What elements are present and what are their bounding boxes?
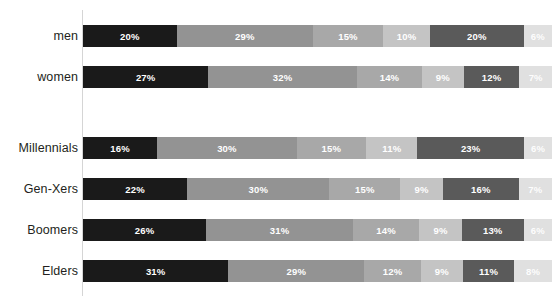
bar-segment: 15% [297, 137, 367, 159]
segment-value-label: 11% [382, 143, 401, 154]
segment-value-label: 6% [531, 225, 545, 236]
segment-value-label: 30% [217, 143, 237, 154]
chart-rows-area: men20%29%15%10%20%6%women27%32%14%9%12%7… [0, 0, 556, 306]
segment-value-label: 10% [397, 31, 417, 42]
bar-segment: 10% [383, 25, 430, 47]
row-label-gen-xers: Gen-Xers [0, 178, 78, 200]
bar-segment: 30% [187, 178, 329, 200]
bar-segment: 15% [329, 178, 400, 200]
segment-value-label: 9% [435, 266, 449, 277]
segment-value-label: 30% [248, 184, 268, 195]
segment-value-label: 23% [461, 143, 481, 154]
segment-value-label: 16% [110, 143, 130, 154]
segment-value-label: 15% [338, 31, 358, 42]
bar-track: 22%30%15%9%16%7% [83, 178, 552, 200]
segment-value-label: 14% [380, 72, 400, 83]
bar-segment: 20% [430, 25, 524, 47]
segment-value-label: 20% [120, 31, 140, 42]
segment-value-label: 7% [529, 72, 543, 83]
segment-value-label: 6% [531, 143, 545, 154]
segment-value-label: 9% [434, 225, 448, 236]
bar-segment: 13% [462, 219, 524, 241]
segment-value-label: 6% [531, 31, 545, 42]
segment-value-label: 31% [146, 266, 166, 277]
bar-segment: 6% [524, 137, 552, 159]
bar-segment: 15% [313, 25, 383, 47]
bar-segment: 29% [228, 260, 364, 282]
segment-value-label: 9% [436, 72, 450, 83]
bar-segment: 6% [524, 219, 552, 241]
bar-segment: 30% [157, 137, 296, 159]
segment-value-label: 11% [479, 266, 498, 277]
bar-segment: 14% [353, 219, 419, 241]
bar-segment: 7% [519, 178, 552, 200]
segment-value-label: 31% [270, 225, 290, 236]
row-label-millennials: Millennials [0, 137, 78, 159]
bar-segment: 27% [83, 66, 208, 88]
bar-segment: 9% [421, 260, 463, 282]
segment-value-label: 12% [383, 266, 403, 277]
row-label-boomers: Boomers [0, 219, 78, 241]
segment-value-label: 15% [355, 184, 375, 195]
bar-track: 26%31%14%9%13%6% [83, 219, 552, 241]
bar-segment: 29% [177, 25, 313, 47]
bar-row: Elders31%29%12%9%11%8% [0, 260, 556, 282]
segment-value-label: 16% [471, 184, 491, 195]
bar-row: men20%29%15%10%20%6% [0, 25, 556, 47]
bar-segment: 9% [400, 178, 443, 200]
segment-value-label: 13% [483, 225, 503, 236]
bar-segment: 11% [366, 137, 417, 159]
bar-track: 27%32%14%9%12%7% [83, 66, 552, 88]
segment-value-label: 9% [415, 184, 429, 195]
bar-segment: 20% [83, 25, 177, 47]
bar-segment: 32% [208, 66, 357, 88]
bar-segment: 7% [519, 66, 552, 88]
segment-value-label: 20% [467, 31, 487, 42]
bar-track: 20%29%15%10%20%6% [83, 25, 552, 47]
bar-segment: 23% [417, 137, 524, 159]
segment-value-label: 12% [482, 72, 502, 83]
bar-row: Boomers26%31%14%9%13%6% [0, 219, 556, 241]
bar-row: women27%32%14%9%12%7% [0, 66, 556, 88]
bar-segment: 26% [83, 219, 206, 241]
bar-segment: 12% [364, 260, 420, 282]
row-label-elders: Elders [0, 260, 78, 282]
bar-segment: 14% [357, 66, 422, 88]
segment-value-label: 7% [528, 184, 542, 195]
bar-segment: 11% [463, 260, 515, 282]
segment-value-label: 29% [235, 31, 255, 42]
bar-row: Gen-Xers22%30%15%9%16%7% [0, 178, 556, 200]
segment-value-label: 8% [526, 266, 540, 277]
bar-segment: 16% [443, 178, 519, 200]
bar-segment: 16% [83, 137, 157, 159]
row-label-men: men [0, 25, 78, 47]
bar-segment: 22% [83, 178, 187, 200]
row-label-women: women [0, 66, 78, 88]
bar-segment: 31% [83, 260, 228, 282]
bar-segment: 9% [422, 66, 464, 88]
bar-track: 31%29%12%9%11%8% [83, 260, 552, 282]
segment-value-label: 29% [287, 266, 307, 277]
segment-value-label: 32% [273, 72, 293, 83]
segment-value-label: 14% [376, 225, 396, 236]
segment-value-label: 15% [322, 143, 342, 154]
bar-segment: 12% [464, 66, 520, 88]
bar-segment: 31% [206, 219, 353, 241]
bar-segment: 9% [419, 219, 462, 241]
bar-segment: 6% [524, 25, 552, 47]
segment-value-label: 22% [125, 184, 145, 195]
stacked-bar-chart: men20%29%15%10%20%6%women27%32%14%9%12%7… [0, 0, 556, 306]
bar-track: 16%30%15%11%23%6% [83, 137, 552, 159]
bar-segment: 8% [514, 260, 552, 282]
bar-row: Millennials16%30%15%11%23%6% [0, 137, 556, 159]
segment-value-label: 27% [136, 72, 156, 83]
segment-value-label: 26% [135, 225, 155, 236]
